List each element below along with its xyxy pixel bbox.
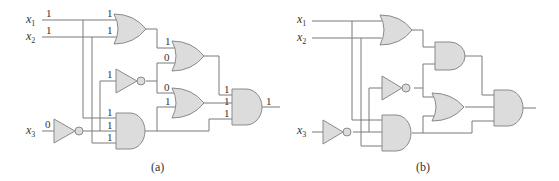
value-or3-in1: 0 xyxy=(164,81,170,93)
value-and1-in2: 1 xyxy=(107,119,113,131)
value-or1-in1: 1 xyxy=(107,7,113,19)
input-x1-label-b: x1 xyxy=(296,12,306,28)
value-and2-in2: 1 xyxy=(224,95,230,107)
panel-a: x1 x2 x3 1 1 0 xyxy=(25,7,280,174)
input-x3-label-b: x3 xyxy=(296,123,306,139)
and-gate-top-b xyxy=(435,42,465,70)
value-and2-in1: 1 xyxy=(224,83,230,95)
not-gate-x3 xyxy=(54,119,75,143)
or-gate-1-b xyxy=(380,15,412,45)
or-gate-1 xyxy=(114,14,146,44)
input-x1-label: x1 xyxy=(25,12,35,28)
not-gate-x3-bubble xyxy=(75,127,83,135)
and-gate-2 xyxy=(232,89,262,125)
not-gate-x3-bubble-b xyxy=(343,128,351,136)
input-x3-label: x3 xyxy=(25,123,35,139)
or-gate-3 xyxy=(172,88,204,118)
and-gate-2-b xyxy=(494,90,523,126)
not-gate-top-bubble-b xyxy=(402,84,410,92)
not-gate-top-bubble xyxy=(137,77,145,85)
input-x2-label-b: x2 xyxy=(296,30,306,46)
value-output: 1 xyxy=(266,95,272,107)
value-and2-in3: 1 xyxy=(224,107,230,119)
value-or3-in2: 1 xyxy=(165,95,171,107)
value-and1-in1: 1 xyxy=(107,106,113,118)
or-gate-2 xyxy=(172,41,204,71)
and-gate-1-b xyxy=(382,115,411,151)
value-or2-in2: 0 xyxy=(164,51,170,63)
value-not-top-in: 1 xyxy=(107,68,113,80)
not-gate-top-b xyxy=(382,76,402,100)
logic-circuit-figure: x1 x2 x3 1 1 0 xyxy=(0,0,559,181)
caption-a: (a) xyxy=(151,160,164,174)
wires-b xyxy=(312,21,536,146)
value-x2: 1 xyxy=(46,24,52,36)
not-gate-top xyxy=(116,69,137,93)
input-x2-label: x2 xyxy=(25,29,35,45)
value-x1: 1 xyxy=(46,7,52,19)
panel-b: x1 x2 x3 xyxy=(296,12,536,174)
not-gate-x3-b xyxy=(323,120,343,144)
value-x3: 0 xyxy=(45,118,51,130)
value-and1-in3: 1 xyxy=(107,131,113,143)
and-gate-1 xyxy=(116,113,145,149)
or-gate-2-b xyxy=(432,93,464,121)
value-or2-in1: 1 xyxy=(165,35,171,47)
caption-b: (b) xyxy=(416,160,430,174)
value-or1-in2: 1 xyxy=(107,24,113,36)
